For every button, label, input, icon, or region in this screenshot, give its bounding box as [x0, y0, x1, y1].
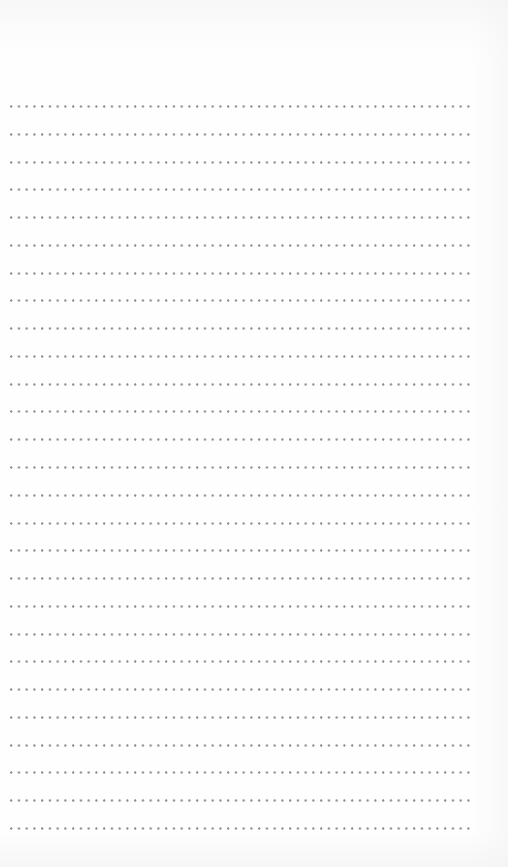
page-edge-shadow	[472, 0, 508, 867]
ruled-line	[10, 299, 474, 302]
ruled-line	[10, 244, 474, 247]
ruled-line	[10, 522, 474, 525]
ruled-line	[10, 771, 474, 774]
ruled-line	[10, 605, 474, 608]
notebook-page	[0, 0, 508, 867]
ruled-line	[10, 716, 474, 719]
ruled-line	[10, 799, 474, 802]
ruled-line	[10, 633, 474, 636]
ruled-line	[10, 105, 474, 108]
ruled-line	[10, 272, 474, 275]
ruled-line	[10, 549, 474, 552]
ruled-line	[10, 466, 474, 469]
ruled-line	[10, 216, 474, 219]
ruled-line	[10, 133, 474, 136]
ruled-line	[10, 161, 474, 164]
ruled-line	[10, 660, 474, 663]
ruled-lines-area	[0, 0, 508, 867]
ruled-line	[10, 188, 474, 191]
ruled-line	[10, 688, 474, 691]
ruled-line	[10, 327, 474, 330]
ruled-line	[10, 744, 474, 747]
ruled-line	[10, 355, 474, 358]
ruled-line	[10, 494, 474, 497]
ruled-line	[10, 438, 474, 441]
ruled-line	[10, 383, 474, 386]
ruled-line	[10, 827, 474, 830]
ruled-line	[10, 410, 474, 413]
ruled-line	[10, 577, 474, 580]
